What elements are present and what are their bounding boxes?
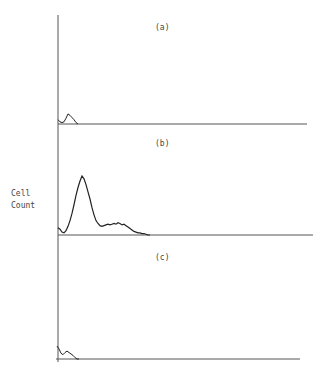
- histogram-curve-b: [58, 176, 150, 235]
- histogram-curve-a: [58, 114, 78, 124]
- histogram-curve-c: [57, 346, 79, 359]
- histogram-figure: [0, 0, 327, 387]
